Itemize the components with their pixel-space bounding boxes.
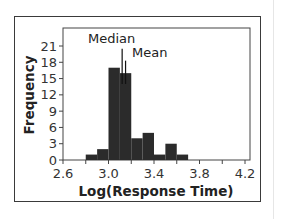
x-tick-label: 3.8 <box>189 166 210 181</box>
histogram-chart: MedianMean0369121518212.63.03.43.84.2Log… <box>0 0 281 219</box>
histogram-bar <box>165 144 176 160</box>
y-tick-label: 21 <box>40 39 57 54</box>
histogram-bar <box>131 138 142 160</box>
mean-label: Mean <box>132 45 167 60</box>
y-tick-label: 9 <box>49 104 57 119</box>
x-tick-label: 3.4 <box>144 166 165 181</box>
y-tick-label: 15 <box>40 71 57 86</box>
x-tick-label: 4.2 <box>235 166 256 181</box>
y-tick-label: 3 <box>49 136 57 151</box>
x-tick-label: 3.0 <box>98 166 119 181</box>
x-tick-label: 2.6 <box>53 166 74 181</box>
y-tick-label: 18 <box>40 55 57 70</box>
y-tick-label: 6 <box>49 120 57 135</box>
histogram-bar <box>109 68 120 160</box>
x-axis-title: Log(Response Time) <box>79 183 234 199</box>
y-tick-label: 12 <box>40 87 57 102</box>
histogram-bar <box>177 155 188 160</box>
y-axis-title: Frequency <box>21 55 37 134</box>
histogram-bar <box>86 155 97 160</box>
histogram-bar <box>120 73 131 160</box>
histogram-bar <box>154 155 165 160</box>
histogram-bar <box>97 149 108 160</box>
histogram-bar <box>143 133 154 160</box>
median-label: Median <box>88 31 135 46</box>
